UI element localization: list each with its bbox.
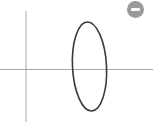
remove-button[interactable]	[127, 1, 144, 18]
ellipse-shape[interactable]	[70, 21, 109, 112]
drawing-canvas[interactable]	[0, 0, 163, 136]
minus-icon	[131, 8, 140, 11]
